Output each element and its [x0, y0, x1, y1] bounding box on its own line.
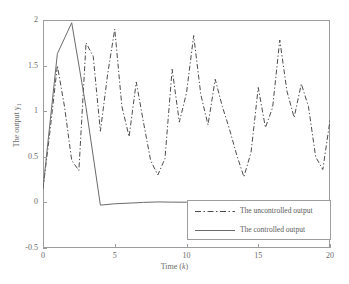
- y-tick-mark: [43, 157, 47, 158]
- y-tick-mark: [43, 20, 47, 21]
- figure: -0.500.511.52 05101520 Time (k) The outp…: [0, 0, 349, 284]
- y-tick-label: 0: [0, 197, 38, 206]
- legend-label-controlled: The controlled output: [240, 225, 305, 234]
- x-tick-mark: [115, 244, 116, 248]
- x-tick-mark: [330, 244, 331, 248]
- legend: The uncontrolled output The controlled o…: [187, 200, 331, 240]
- x-tick-label: 15: [243, 251, 273, 260]
- x-axis-label: Time (k): [0, 262, 349, 271]
- x-tick-label: 5: [100, 251, 130, 260]
- legend-label-uncontrolled: The uncontrolled output: [240, 206, 312, 215]
- y-tick-mark: [43, 66, 47, 67]
- y-axis-label: The output y1: [12, 60, 23, 190]
- y-tick-mark: [43, 111, 47, 112]
- y-axis-label-text: The output y: [12, 106, 21, 147]
- x-tick-mark: [43, 244, 44, 248]
- y-tick-mark: [43, 248, 47, 249]
- legend-sample-solid: [194, 221, 236, 240]
- x-tick-label: 10: [172, 251, 202, 260]
- legend-item-controlled: The controlled output: [188, 221, 332, 240]
- y-tick-label: 2: [0, 15, 38, 24]
- y-axis-label-subscript: 1: [16, 103, 22, 106]
- x-tick-mark: [258, 244, 259, 248]
- series-controlled-line: [43, 23, 330, 205]
- x-tick-mark: [187, 244, 188, 248]
- x-tick-label: 0: [28, 251, 58, 260]
- legend-sample-dashdot: [194, 202, 236, 221]
- y-tick-mark: [43, 202, 47, 203]
- x-tick-label: 20: [315, 251, 345, 260]
- x-axis-label-text: Time (k): [161, 262, 189, 271]
- legend-item-uncontrolled: The uncontrolled output: [188, 202, 332, 221]
